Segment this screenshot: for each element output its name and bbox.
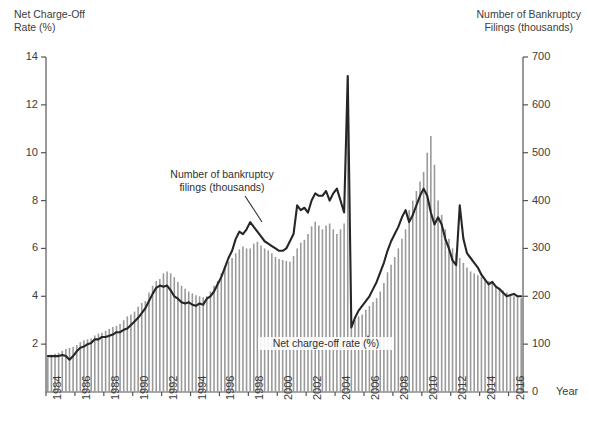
x-axis-tick: 2014 — [485, 376, 497, 400]
x-axis-tick: 2010 — [427, 376, 439, 400]
annotation-bankruptcy-filings: Number of bankruptcy filings (thousands) — [152, 168, 292, 194]
y-axis-tick-right: 600 — [532, 98, 550, 110]
y-axis-tick-left: 8 — [8, 194, 38, 206]
x-axis-tick: 1988 — [109, 376, 121, 400]
y-axis-tick-right: 200 — [532, 289, 550, 301]
y-axis-tick-right: 700 — [532, 50, 550, 62]
x-axis-tick: 2016 — [514, 376, 526, 400]
y-axis-tick-right: 100 — [532, 337, 550, 349]
y-axis-tick-left: 10 — [8, 146, 38, 158]
y-axis-tick-left: 2 — [8, 337, 38, 349]
x-axis-tick: 2004 — [340, 376, 352, 400]
y-axis-tick-right: 0 — [532, 385, 538, 397]
y-axis-tick-right: 400 — [532, 194, 550, 206]
x-axis-tick: 2002 — [311, 376, 323, 400]
x-axis-tick: 1996 — [224, 376, 236, 400]
y-axis-tick-left: 14 — [8, 50, 38, 62]
annotation-net-charge-off-rate: Net charge-off rate (%) — [258, 337, 394, 350]
x-axis-tick: 2012 — [456, 376, 468, 400]
y-axis-tick-left: 12 — [8, 98, 38, 110]
x-axis-tick: 1992 — [167, 376, 179, 400]
net-charge-off-rate-line — [48, 76, 521, 360]
y-axis-tick-right: 500 — [532, 146, 550, 158]
x-axis-tick: 1984 — [51, 376, 63, 400]
y-axis-tick-right: 300 — [532, 241, 550, 253]
x-axis-tick: 1986 — [80, 376, 92, 400]
x-axis-tick: 1990 — [138, 376, 150, 400]
x-axis-tick: 2000 — [282, 376, 294, 400]
annotation-leader-line — [245, 196, 262, 222]
x-axis-tick: 2006 — [369, 376, 381, 400]
x-axis-tick: 1994 — [196, 376, 208, 400]
x-axis-tick: 1998 — [253, 376, 265, 400]
x-axis-tick: 2008 — [398, 376, 410, 400]
x-axis-label-year: Year — [556, 385, 578, 397]
chart-container: Net Charge-Off Rate (%) Number of Bankru… — [0, 0, 589, 443]
y-axis-tick-left: 4 — [8, 289, 38, 301]
y-axis-tick-left: 6 — [8, 241, 38, 253]
